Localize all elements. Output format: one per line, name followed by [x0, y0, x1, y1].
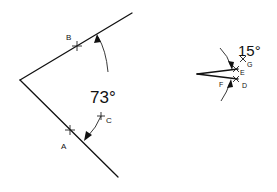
angle-arc-upper [98, 37, 108, 72]
point-g-label: G [247, 61, 252, 68]
upper-ray-small [197, 69, 238, 74]
small-arrowhead-upper [228, 61, 234, 70]
small-arrowhead-lower [227, 79, 233, 88]
angle-diagram: B A C 73° E [0, 0, 277, 192]
point-d-label: D [242, 82, 247, 89]
point-c-label: C [106, 116, 112, 125]
point-b-label: B [66, 33, 71, 42]
lower-ray-small [197, 74, 238, 79]
right-angle-figure: E G D F 15° [197, 42, 261, 101]
point-a-label: A [61, 142, 67, 151]
angle-73-label: 73° [90, 88, 116, 107]
upper-ray [20, 13, 132, 80]
point-e-label: E [240, 69, 245, 76]
angle-15-label: 15° [238, 42, 261, 59]
point-f-label: F [219, 81, 223, 88]
left-angle-figure: B A C 73° [20, 13, 132, 177]
point-b-marker [72, 41, 82, 51]
angle-arc-lower [88, 116, 101, 136]
